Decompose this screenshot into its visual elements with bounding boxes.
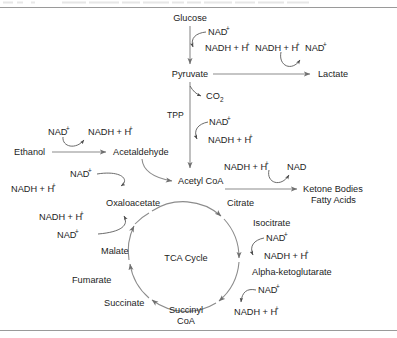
label-fatty-acids: Fatty Acids (311, 195, 356, 205)
label-malate: Malate (101, 246, 129, 256)
label-nadh-ketogenesis: NADH + H (224, 162, 267, 172)
label-nad-adh: NAD (48, 127, 68, 137)
label-ethanol: Ethanol (14, 147, 45, 157)
sup-nad-adh: + (66, 125, 70, 132)
label-nad-ketogenesis: NAD (287, 162, 307, 172)
sup-nadh-aldh: + (52, 182, 56, 189)
sup-nadh-lactate: + (296, 41, 300, 48)
label-nadh-aldh: NADH + H (11, 184, 54, 194)
label-glucose: Glucose (173, 13, 207, 23)
label-nadh-idh: NADH + H (264, 251, 307, 261)
label-co2: CO (206, 91, 220, 101)
label-nadh-pdh: NADH + H (208, 135, 251, 145)
figure-background (0, 0, 397, 338)
label-succinyl-coa-line2: CoA (177, 316, 196, 326)
sup-nadh-kgdh: + (275, 305, 279, 312)
sup-nad-glycolysis: + (226, 25, 230, 32)
label-acetyl-coa: Acetyl CoA (178, 176, 224, 186)
label-lactate: Lactate (318, 69, 348, 79)
sup-nad-pdh: + (227, 115, 231, 122)
label-nad-mdh: NAD (57, 230, 77, 240)
label-succinyl-coa-line1: Succinyl (169, 305, 203, 315)
sup-nadh-glycolysis: + (246, 41, 250, 48)
label-oxaloacetate: Oxaloacetate (106, 198, 160, 208)
sup-nad-aldh: + (88, 167, 92, 174)
label-fumarate: Fumarate (72, 275, 111, 285)
sup-nadh-pdh: + (249, 133, 253, 140)
label-nadh-glycolysis: NADH + H (205, 43, 248, 53)
label-tca-cycle-center: TCA Cycle (164, 253, 207, 263)
label-succinate: Succinate (104, 298, 144, 308)
label-alpha-ketoglutarate: Alpha-ketoglutarate (252, 267, 332, 277)
sup-nad-lactate: + (323, 41, 327, 48)
label-pyruvate: Pyruvate (172, 69, 208, 79)
label-isocitrate: Isocitrate (253, 218, 290, 228)
label-nadh-lactate: NADH + H (255, 43, 298, 53)
label-nadh-mdh: NADH + H (39, 212, 82, 222)
metabolic-pathway-figure: Glucose NAD + NADH + H + Pyruvate NADH +… (0, 0, 397, 338)
label-nad-glycolysis: NAD (208, 27, 228, 37)
label-nad-kgdh: NAD (258, 285, 278, 295)
sup-nad-kgdh: + (276, 283, 280, 290)
sup-nadh-mdh: + (80, 210, 84, 217)
label-nadh-kgdh: NADH + H (234, 307, 277, 317)
sup-nadh-adh: + (129, 125, 133, 132)
label-ketone-bodies: Ketone Bodies (303, 184, 363, 194)
label-nadh-adh: NADH + H (88, 127, 131, 137)
sub-co2: 2 (220, 96, 224, 103)
label-tpp: TPP (167, 110, 184, 120)
sup-nadh-idh: + (305, 249, 309, 256)
label-acetaldehyde: Acetaldehyde (113, 147, 169, 157)
label-nad-aldh: NAD (70, 169, 90, 179)
sup-nadh-ketogenesis: + (265, 160, 269, 167)
label-nad-idh: NAD (266, 233, 286, 243)
sup-nad-mdh: + (75, 228, 79, 235)
label-nad-pdh: NAD (209, 117, 229, 127)
label-citrate: Citrate (227, 198, 254, 208)
label-nad-lactate: NAD (305, 43, 325, 53)
sup-nad-idh: + (284, 231, 288, 238)
